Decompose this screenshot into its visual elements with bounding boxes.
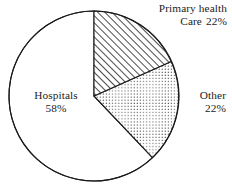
pie-label-primary-health-care-text: Care bbox=[180, 15, 202, 27]
pie-label-other-text: Other bbox=[200, 89, 226, 102]
pie-chart-figure: Primary health Care22% Other 22% Hospita… bbox=[0, 0, 232, 194]
pie-label-primary-health-care-line1: Primary health bbox=[159, 2, 227, 15]
pie-value-primary-health-care: 22% bbox=[206, 15, 227, 28]
pie-label-hospitals: Hospitals 58% bbox=[27, 89, 85, 114]
pie-label-primary-health-care-line2: Care22% bbox=[159, 15, 227, 28]
pie-label-primary-health-care: Primary health Care22% bbox=[159, 2, 227, 27]
pie-label-hospitals-text: Hospitals bbox=[27, 89, 85, 102]
pie-value-other: 22% bbox=[200, 102, 226, 115]
pie-label-other: Other 22% bbox=[200, 89, 226, 114]
pie-value-hospitals: 58% bbox=[27, 102, 85, 115]
